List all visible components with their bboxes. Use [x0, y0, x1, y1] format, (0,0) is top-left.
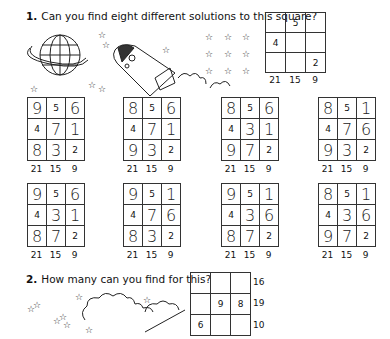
question-2-grid: 9 8 6 — [190, 272, 251, 336]
column-sum: 15 — [240, 250, 259, 260]
grid-cell: 7 — [47, 119, 66, 140]
column-sums: 21159 — [221, 250, 278, 260]
grid-cell: 7 — [143, 205, 162, 226]
svg-text:☆: ☆ — [98, 30, 106, 40]
column-sum: 15 — [285, 75, 305, 85]
column-sum: 9 — [305, 75, 325, 85]
grid-cell: 5 — [143, 98, 162, 119]
grid-cell: 6 — [162, 205, 181, 226]
svg-text:☆: ☆ — [205, 32, 213, 42]
svg-text:☆: ☆ — [102, 40, 110, 50]
grid-cell: 8 — [319, 184, 338, 205]
column-sum: 21 — [27, 164, 46, 174]
column-sum: 21 — [318, 250, 337, 260]
grid-cell — [191, 273, 211, 294]
grid-cell: 6 — [162, 98, 181, 119]
column-sum: 21 — [221, 164, 240, 174]
grid-cell: 7 — [241, 140, 260, 161]
svg-text:☆: ☆ — [75, 292, 83, 302]
column-sums: 21159 — [27, 164, 84, 174]
svg-text:☆: ☆ — [30, 84, 38, 94]
column-sum: 9 — [65, 164, 84, 174]
grid-cell: 2 — [357, 226, 376, 247]
grid-cell: 5 — [47, 98, 66, 119]
grid-cell: 8 — [124, 226, 143, 247]
svg-text:☆: ☆ — [98, 84, 106, 94]
grid-cell: 9 — [211, 294, 231, 315]
grid-cell: 3 — [338, 205, 357, 226]
svg-text:☆: ☆ — [224, 66, 232, 76]
grid-cell: 9 — [28, 184, 47, 205]
question-number: 2. — [26, 273, 37, 285]
column-sum: 15 — [142, 250, 161, 260]
grid-cell: 7 — [47, 226, 66, 247]
grid-cell: 5 — [241, 184, 260, 205]
grid-cell: 4 — [319, 205, 338, 226]
svg-text:☆: ☆ — [143, 295, 151, 305]
grid-cell: 1 — [66, 119, 85, 140]
grid-cell: 2 — [306, 53, 326, 73]
grid-cell — [191, 294, 211, 315]
svg-text:☆: ☆ — [33, 300, 41, 310]
grid-cell: 1 — [357, 98, 376, 119]
grid-cell — [286, 53, 306, 73]
grid-cell: 9 — [124, 184, 143, 205]
grid-cell — [211, 273, 231, 294]
grid-cell: 3 — [47, 140, 66, 161]
column-sums: 21 15 9 — [265, 75, 325, 85]
svg-text:☆: ☆ — [162, 45, 170, 55]
column-sums: 21159 — [318, 164, 375, 174]
grid-cell: 7 — [338, 119, 357, 140]
space-illustration: ☆ ☆ ☆ ☆ ☆ ☆ ☆ ☆ ☆ ☆ ☆ ☆ ☆ ☆ ☆ — [10, 28, 260, 96]
grid-cell: 1 — [357, 184, 376, 205]
grid-cell: 3 — [338, 140, 357, 161]
grid-cell: 5 — [286, 13, 306, 33]
grid-cell: 4 — [28, 205, 47, 226]
grid-cell: 1 — [162, 184, 181, 205]
grid-cell: 4 — [124, 205, 143, 226]
column-sum: 21 — [27, 250, 46, 260]
solution-grid: 851476932 — [318, 97, 376, 161]
svg-text:☆: ☆ — [63, 320, 71, 330]
solution-grid: 951476832 — [123, 183, 181, 247]
grid-cell: 6 — [260, 205, 279, 226]
grid-cell: 9 — [222, 140, 241, 161]
column-sum: 15 — [142, 164, 161, 174]
grid-cell: 5 — [241, 98, 260, 119]
column-sums: 21159 — [27, 250, 84, 260]
grid-cell: 3 — [241, 119, 260, 140]
svg-text:☆: ☆ — [205, 66, 213, 76]
row-sum: 16 — [253, 277, 264, 287]
column-sum: 15 — [240, 164, 259, 174]
grid-cell: 2 — [66, 226, 85, 247]
grid-cell: 7 — [143, 119, 162, 140]
column-sum: 9 — [161, 250, 180, 260]
grid-cell: 8 — [124, 98, 143, 119]
column-sums: 21159 — [221, 164, 278, 174]
grid-cell: 4 — [28, 119, 47, 140]
grid-cell: 6 — [357, 205, 376, 226]
column-sums: 21159 — [318, 250, 375, 260]
grid-cell: 5 — [338, 184, 357, 205]
row-sum: 10 — [253, 320, 264, 330]
solution-grid: 951436872 — [221, 183, 279, 247]
grid-cell: 1 — [162, 119, 181, 140]
svg-text:☆: ☆ — [242, 49, 250, 59]
svg-text:☆: ☆ — [205, 49, 213, 59]
svg-text:☆: ☆ — [85, 325, 93, 335]
grid-cell: 9 — [222, 184, 241, 205]
solution-grid: 956471832 — [27, 97, 85, 161]
column-sum: 9 — [356, 164, 375, 174]
row-sum: 19 — [253, 298, 264, 308]
column-sum: 21 — [265, 75, 285, 85]
grid-cell: 4 — [222, 205, 241, 226]
column-sum: 21 — [318, 164, 337, 174]
grid-cell — [286, 33, 306, 53]
column-sum: 15 — [46, 250, 65, 260]
grid-cell: 2 — [260, 140, 279, 161]
planet-icon — [28, 35, 89, 75]
grid-cell — [306, 33, 326, 53]
column-sum: 15 — [337, 250, 356, 260]
column-sum: 15 — [337, 164, 356, 174]
svg-text:☆: ☆ — [224, 32, 232, 42]
